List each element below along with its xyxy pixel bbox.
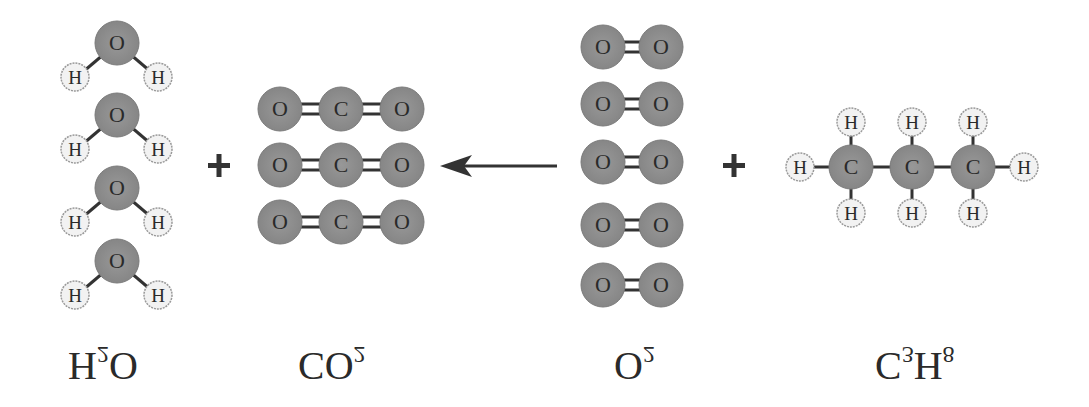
svg-text:O: O <box>272 210 288 235</box>
label-propane: C3H8 <box>875 343 955 386</box>
oxygen-molecule: OO <box>581 263 683 307</box>
svg-text:O: O <box>595 150 611 175</box>
hydrogen-atom: H <box>61 135 89 163</box>
svg-text:H: H <box>844 112 858 133</box>
svg-text:H: H <box>151 67 165 88</box>
oxygen-atom: O <box>258 87 302 131</box>
hydrogen-atom: H <box>959 199 987 227</box>
svg-text:O: O <box>595 35 611 60</box>
svg-text:O: O <box>653 273 669 298</box>
hydrogen-atom: H <box>144 135 172 163</box>
label-carbon-dioxide: CO2 <box>298 343 366 386</box>
oxygen-atom: O <box>95 21 139 65</box>
svg-text:H: H <box>793 157 807 178</box>
svg-text:C: C <box>844 155 859 180</box>
plus-sign-left <box>208 154 230 177</box>
oxygen-atom: O <box>95 239 139 283</box>
oxygen-atom: O <box>639 25 683 69</box>
svg-text:H: H <box>151 285 165 306</box>
hydrogen-atom: H <box>1010 153 1038 181</box>
oxygen-atom: O <box>380 200 424 244</box>
oxygen-molecule: OO <box>581 25 683 69</box>
svg-text:H: H <box>151 139 165 160</box>
oxygen-atom: O <box>581 140 625 184</box>
oxygen-atom: O <box>95 166 139 210</box>
hydrogen-atom: H <box>898 199 926 227</box>
svg-text:H: H <box>844 203 858 224</box>
svg-text:O: O <box>272 153 288 178</box>
svg-text:O: O <box>653 35 669 60</box>
oxygen-atom: O <box>639 263 683 307</box>
svg-text:H: H <box>905 203 919 224</box>
svg-text:O: O <box>653 92 669 117</box>
hydrogen-atom: H <box>959 108 987 136</box>
label-water: H2O <box>68 343 138 386</box>
oxygen-atom: O <box>639 203 683 247</box>
carbon-atom: C <box>319 87 363 131</box>
oxygen-molecule: OO <box>581 203 683 247</box>
svg-text:H: H <box>966 112 980 133</box>
water-molecule: OHH <box>61 239 172 309</box>
oxygen-molecule: OO <box>581 82 683 126</box>
carbon-atom: C <box>319 200 363 244</box>
carbon-dioxide-molecule: OCO <box>258 143 424 187</box>
oxygen-atom: O <box>581 203 625 247</box>
carbon-atom: C <box>319 143 363 187</box>
svg-text:O: O <box>595 273 611 298</box>
reaction-diagram: OHHOHHOHHOHHOCOOCOOCOOOOOOOOOOOHHHHHHHHC… <box>0 0 1089 407</box>
svg-text:O: O <box>595 213 611 238</box>
svg-text:H: H <box>1017 157 1031 178</box>
hydrogen-atom: H <box>61 281 89 309</box>
hydrogen-atom: H <box>144 63 172 91</box>
carbon-atom: C <box>829 145 873 189</box>
carbon-atom: C <box>951 145 995 189</box>
carbon-atom: C <box>890 145 934 189</box>
svg-text:O: O <box>272 97 288 122</box>
oxygen-atom: O <box>581 25 625 69</box>
water-molecule: OHH <box>61 21 172 91</box>
propane-molecule: HHHHHHHHCCC <box>786 108 1038 227</box>
svg-text:H: H <box>68 212 82 233</box>
svg-text:C: C <box>905 155 920 180</box>
oxygen-atom: O <box>639 140 683 184</box>
plus-sign-right <box>723 154 745 177</box>
svg-text:O: O <box>109 249 125 274</box>
svg-text:C: C <box>966 155 981 180</box>
hydrogen-atom: H <box>61 208 89 236</box>
carbon-dioxide-molecule: OCO <box>258 200 424 244</box>
svg-text:C: C <box>334 97 349 122</box>
label-oxygen: O2 <box>614 343 655 386</box>
svg-text:C: C <box>334 210 349 235</box>
oxygen-atom: O <box>380 87 424 131</box>
oxygen-atom: O <box>380 143 424 187</box>
svg-text:O: O <box>109 103 125 128</box>
hydrogen-atom: H <box>61 63 89 91</box>
svg-text:H: H <box>68 139 82 160</box>
svg-text:O: O <box>653 213 669 238</box>
hydrogen-atom: H <box>837 108 865 136</box>
svg-text:H: H <box>68 285 82 306</box>
svg-text:C: C <box>334 153 349 178</box>
hydrogen-atom: H <box>837 199 865 227</box>
svg-text:O: O <box>109 176 125 201</box>
svg-text:H: H <box>966 203 980 224</box>
hydrogen-atom: H <box>786 153 814 181</box>
oxygen-atom: O <box>95 93 139 137</box>
svg-text:H: H <box>68 67 82 88</box>
hydrogen-atom: H <box>144 208 172 236</box>
reaction-arrow-icon <box>440 155 557 177</box>
oxygen-molecule: OO <box>581 140 683 184</box>
svg-text:O: O <box>394 210 410 235</box>
svg-text:O: O <box>653 150 669 175</box>
oxygen-atom: O <box>258 200 302 244</box>
svg-text:O: O <box>595 92 611 117</box>
oxygen-atom: O <box>258 143 302 187</box>
carbon-dioxide-molecule: OCO <box>258 87 424 131</box>
water-molecule: OHH <box>61 166 172 236</box>
hydrogen-atom: H <box>898 108 926 136</box>
hydrogen-atom: H <box>144 281 172 309</box>
svg-text:O: O <box>109 31 125 56</box>
oxygen-atom: O <box>581 263 625 307</box>
oxygen-atom: O <box>581 82 625 126</box>
water-molecule: OHH <box>61 93 172 163</box>
